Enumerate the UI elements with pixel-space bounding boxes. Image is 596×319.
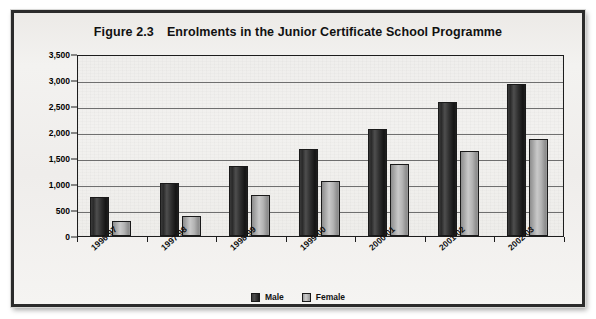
y-axis-tick-label: 2,000 bbox=[24, 128, 70, 138]
legend-item-female: Female bbox=[302, 292, 345, 302]
y-axis-tick-mark bbox=[71, 133, 77, 134]
x-axis: 1996-971997-981998-991999-002000-012001-… bbox=[77, 237, 564, 289]
y-axis-tick-label: 1,000 bbox=[24, 180, 70, 190]
y-axis-tick-label: 500 bbox=[24, 206, 70, 216]
y-axis-tick-label: 2,500 bbox=[24, 102, 70, 112]
x-axis-tick-mark bbox=[286, 237, 287, 242]
legend-swatch-male bbox=[251, 293, 260, 302]
x-axis-tick-mark bbox=[564, 237, 565, 242]
y-axis-tick-mark bbox=[71, 81, 77, 82]
x-axis-tick-mark bbox=[425, 237, 426, 242]
y-axis-tick-label: 3,000 bbox=[24, 76, 70, 86]
x-axis-tick-mark bbox=[77, 237, 78, 242]
legend-swatch-female bbox=[302, 293, 311, 302]
figure-caption: Enrolments in the Junior Certificate Sch… bbox=[167, 25, 502, 39]
y-axis-tick-mark bbox=[71, 107, 77, 108]
x-axis-tick-mark bbox=[494, 237, 495, 242]
y-axis-tick-label: 0 bbox=[24, 232, 70, 242]
y-axis-tick-label: 1,500 bbox=[24, 154, 70, 164]
x-axis-tick-mark bbox=[216, 237, 217, 242]
x-axis-tick-mark bbox=[147, 237, 148, 242]
legend-label-male: Male bbox=[265, 292, 284, 302]
y-axis-tick-label: 3,500 bbox=[24, 50, 70, 60]
y-axis: 3,5003,0002,5002,0001,5001,0005000 bbox=[14, 55, 596, 237]
x-axis-tick-mark bbox=[355, 237, 356, 242]
figure-frame: Figure 2.3Enrolments in the Junior Certi… bbox=[11, 10, 585, 307]
legend-label-female: Female bbox=[316, 292, 345, 302]
y-axis-tick-mark bbox=[71, 185, 77, 186]
y-axis-tick-mark bbox=[71, 55, 77, 56]
figure-number: Figure 2.3 bbox=[94, 25, 154, 39]
legend-item-male: Male bbox=[251, 292, 284, 302]
chart-legend: MaleFemale bbox=[14, 292, 582, 302]
chart-title: Figure 2.3Enrolments in the Junior Certi… bbox=[14, 25, 582, 39]
y-axis-tick-mark bbox=[71, 211, 77, 212]
y-axis-tick-mark bbox=[71, 159, 77, 160]
